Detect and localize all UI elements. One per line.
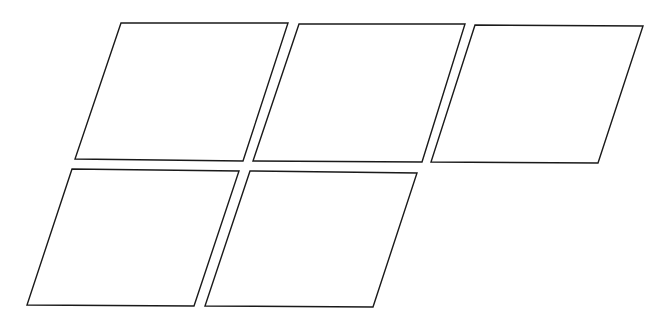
parallelogram-diagram	[0, 0, 672, 331]
